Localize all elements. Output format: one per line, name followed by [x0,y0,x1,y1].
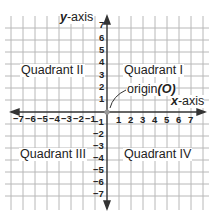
origin-symbol: (O) [158,82,176,96]
x-tick: −6 [25,114,36,124]
y-tick: 2 [99,82,104,92]
y-axis-var: y [60,10,67,24]
y-tick: 4 [99,57,104,67]
origin-pointer [110,90,126,108]
quadrant-1-label: Quadrant I [123,64,184,77]
y-axis-suffix: -axis [67,10,93,24]
x-tick: 5 [164,115,169,125]
x-axis-right-arrow-icon [197,109,205,115]
x-tick: 3 [140,115,145,125]
coordinate-plane [0,0,215,218]
x-tick: −4 [49,114,60,124]
origin-label: origin(O) [127,83,176,96]
x-tick: 4 [152,115,157,125]
x-tick: −3 [61,114,72,124]
x-tick: −5 [37,114,48,124]
y-tick: −7 [93,189,104,199]
x-tick: −7 [13,114,24,124]
origin-text: origin [127,82,158,96]
y-axis-down-arrow-icon [104,201,110,209]
quadrant-4-label: Quadrant IV [123,148,192,161]
y-axis-label: y-axis [60,11,93,24]
y-tick: 3 [99,70,104,80]
origin-dot [104,109,109,114]
x-axis-suffix: -axis [178,94,204,108]
x-tick: 1 [116,115,121,125]
y-tick: 1 [99,94,104,104]
x-tick: 2 [128,115,133,125]
y-axis-up-arrow-icon [104,16,110,24]
y-tick: 5 [99,45,104,55]
y-tick: −5 [93,165,104,175]
quadrant-2-label: Quadrant II [20,64,85,77]
x-axis-label: x-axis [171,95,204,108]
x-tick: 7 [188,115,193,125]
x-tick: −2 [73,114,84,124]
y-tick: 7 [99,20,104,30]
x-tick: 6 [176,115,181,125]
quadrant-3-label: Quadrant III [19,148,87,161]
y-tick: −6 [93,177,104,187]
y-tick: 6 [99,33,104,43]
y-tick: −4 [93,153,104,163]
y-tick: −3 [93,141,104,151]
x-axis-var: x [171,94,178,108]
y-tick: −2 [93,129,104,139]
y-tick: −1 [93,117,104,127]
